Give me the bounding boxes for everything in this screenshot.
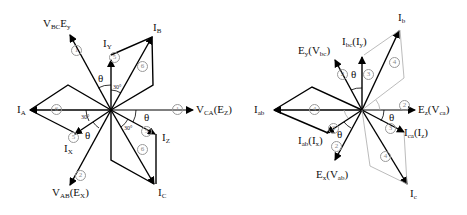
- label-iab-left: Iab: [254, 104, 264, 117]
- label-iy: IY: [103, 38, 112, 51]
- label-ibc-iy: Ibc(Iy): [342, 36, 367, 49]
- right-phasor-diagram: [274, 30, 415, 184]
- theta-right-right: θ: [389, 111, 394, 123]
- circled-number: 2: [399, 100, 410, 111]
- label-ey-vbc: Ey(Vbc): [298, 45, 330, 58]
- circled-number: 5: [68, 132, 79, 143]
- thirty-left: 30°: [81, 114, 89, 120]
- circled-number: 1: [172, 104, 183, 115]
- circled-number: 2: [337, 69, 348, 80]
- theta-top-right: θ: [351, 68, 356, 80]
- circled-number: 5: [141, 126, 152, 137]
- circled-number: 2: [331, 141, 342, 152]
- theta-arc-right-right: [381, 110, 384, 121]
- label-ica-iz: Ica(Iz): [404, 127, 428, 140]
- label-vbc-ey: VBCEy: [43, 18, 71, 31]
- circled-number: 6: [51, 104, 62, 115]
- circled-number: 4: [380, 151, 391, 162]
- label-ez-vca: Ez(Vca): [418, 104, 449, 117]
- theta-arc-left-right: [344, 122, 351, 128]
- circled-number: 3: [385, 123, 396, 134]
- circled-number: 4: [389, 57, 400, 68]
- circled-number: 4: [309, 104, 320, 115]
- circled-number: 2: [75, 170, 86, 181]
- label-ic-right: Ic: [410, 188, 417, 201]
- theta-arc-right: [133, 110, 136, 122]
- label-iz: IZ: [162, 132, 170, 145]
- thirty-right: 30°: [124, 125, 132, 131]
- iab-parallelogram-bottom: [274, 110, 328, 133]
- circled-number: 1: [71, 45, 82, 56]
- label-ib-right: Ib: [398, 12, 405, 25]
- label-ib: IB: [153, 22, 161, 35]
- theta-arc-top: [98, 85, 111, 88]
- ib-phasor: [111, 37, 152, 110]
- label-vab-ex: VAB(EX): [52, 187, 89, 200]
- theta-left: θ: [85, 129, 90, 141]
- theta-right: θ: [144, 111, 149, 123]
- circled-number: 6: [137, 144, 148, 155]
- label-iab-ix: Iab(Ix): [298, 135, 323, 148]
- theta-arc-top-right: [351, 88, 362, 90]
- ey-phasor: [335, 60, 362, 110]
- label-ex-vab: Ex(Vab): [316, 169, 348, 182]
- label-ix: IX: [64, 143, 73, 156]
- label-ia: IA: [17, 104, 26, 117]
- label-vca-ez: VCA(EZ): [196, 104, 232, 117]
- arc-grey-left: [344, 110, 348, 118]
- circled-number: 5: [109, 52, 120, 63]
- theta-arc-left: [93, 122, 99, 128]
- phasor-diagrams: [0, 0, 467, 215]
- thirty-top: 30°: [113, 84, 121, 90]
- circled-number: 3: [363, 69, 374, 80]
- thirty-arc-top: [111, 90, 121, 93]
- arc-grey-right: [376, 100, 380, 110]
- circled-number: 6: [137, 61, 148, 72]
- label-ic: IC: [158, 187, 166, 200]
- theta-top: θ: [98, 72, 103, 84]
- circled-number: 3: [328, 123, 339, 134]
